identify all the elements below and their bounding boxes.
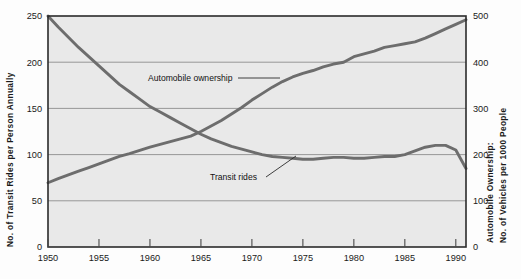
- y-axis-ticks: 050100150200250: [27, 11, 42, 252]
- chart-figure: 195019551960196519701975198019851990 050…: [0, 0, 521, 279]
- y2-tick-label-500: 500: [473, 11, 488, 21]
- x-tick-label-1960: 1960: [140, 253, 160, 263]
- x-tick-label-1970: 1970: [242, 253, 262, 263]
- x-tick-label-1985: 1985: [395, 253, 415, 263]
- x-tick-label-1955: 1955: [89, 253, 109, 263]
- y2-tick-label-0: 0: [473, 242, 478, 252]
- y2-axis-title-line1: Automobile Ownership:: [485, 142, 495, 243]
- y-tick-label-0: 0: [37, 242, 42, 252]
- x-tick-label-1950: 1950: [38, 253, 58, 263]
- x-tick-label-1965: 1965: [191, 253, 211, 263]
- annotation-transit-rides: Transit rides: [210, 172, 257, 182]
- y2-tick-label-300: 300: [473, 104, 488, 114]
- plot-background: [48, 16, 466, 247]
- y-tick-label-250: 250: [27, 11, 42, 21]
- annotation-automobile-ownership: Automobile ownership: [148, 73, 233, 83]
- y-tick-label-50: 50: [32, 196, 42, 206]
- transit-vs-automobile-line-chart: 195019551960196519701975198019851990 050…: [0, 0, 521, 279]
- x-tick-label-1975: 1975: [293, 253, 313, 263]
- x-tick-label-1980: 1980: [344, 253, 364, 263]
- y-tick-label-200: 200: [27, 58, 42, 68]
- y-tick-label-100: 100: [27, 150, 42, 160]
- x-tick-label-1990: 1990: [446, 253, 466, 263]
- y2-axis-title-line2: No. of Vehicles per 1000 People: [498, 108, 508, 243]
- y-tick-label-150: 150: [27, 104, 42, 114]
- y2-tick-label-400: 400: [473, 58, 488, 68]
- y-axis-title: No. of Transit Rides per Person Annually: [5, 72, 15, 247]
